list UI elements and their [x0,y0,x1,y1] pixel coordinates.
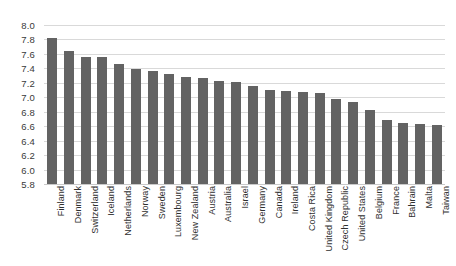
y-axis: 8.07.87.67.47.27.06.86.66.46.26.05.8 [0,25,40,184]
bar[interactable] [214,81,224,184]
y-tick-label: 7.2 [21,77,35,88]
bars-layer [44,25,445,184]
x-tick-label-text: Finland [56,186,66,216]
y-tick-label: 7.4 [21,63,35,74]
bar[interactable] [198,78,208,184]
x-tick-label-text: New Zealand [190,186,200,240]
x-tick-label: Austria [207,186,217,215]
x-tick-label: Finland [56,186,66,216]
x-tick-label: Australia [223,186,233,222]
bar[interactable] [131,69,141,184]
bar[interactable] [148,71,158,184]
x-tick-label-text: Malta [424,186,434,209]
x-tick-label: New Zealand [190,186,200,240]
y-tick-label: 6.6 [21,121,35,132]
x-tick-label-text: Denmark [73,186,83,223]
x-tick-label-text: Canada [274,186,284,218]
bar[interactable] [315,93,325,184]
bar[interactable] [64,51,74,184]
y-tick-label: 7.6 [21,48,35,59]
x-tick-label: Luxembourg [173,186,183,237]
y-tick-label: 8.0 [21,20,35,31]
x-tick-label-text: Sweden [157,186,167,219]
x-tick-label-text: Australia [223,186,233,222]
x-tick-label-text: Belgium [374,186,384,219]
x-tick-label-text: Costa Rica [307,186,317,231]
x-tick-label-text: Norway [140,186,150,217]
x-tick-label-text: Iceland [106,186,116,216]
x-tick-label: Canada [274,186,284,218]
bar[interactable] [298,92,308,184]
x-tick-label-text: Israel [240,186,250,209]
bar[interactable] [281,91,291,184]
bar[interactable] [164,74,174,184]
x-tick-label-text: Netherlands [123,186,133,236]
bar-chart: 8.07.87.67.47.27.06.86.66.46.26.05.8 Fin… [0,0,456,266]
x-axis: FinlandDenmarkSwitzerlandIcelandNetherla… [44,186,445,266]
y-tick-label: 7.0 [21,92,35,103]
bar[interactable] [398,123,408,184]
x-tick-label: Switzerland [90,186,100,234]
gridline [44,184,445,185]
bar[interactable] [415,124,425,184]
x-tick-label: Netherlands [123,186,133,236]
bar[interactable] [47,38,57,184]
x-tick-label: Sweden [157,186,167,219]
y-tick-label: 7.8 [21,34,35,45]
x-tick-label-text: Czech Republic [340,186,350,250]
x-tick-label: Belgium [374,186,384,219]
x-tick-label: Czech Republic [340,186,350,250]
bar[interactable] [81,57,91,184]
x-tick-label-text: Austria [207,186,217,215]
x-tick-label-text: Bahrain [407,186,417,218]
x-tick-label-text: United States [357,186,367,241]
x-tick-label: Germany [257,186,267,224]
x-tick-label: Israel [240,186,250,209]
x-tick-label-text: France [391,186,401,215]
y-tick-label: 6.0 [21,164,35,175]
x-tick-label-text: Luxembourg [173,186,183,237]
bar[interactable] [248,86,258,184]
x-tick-label: Ireland [290,186,300,214]
x-tick-label: Costa Rica [307,186,317,231]
bar[interactable] [114,64,124,184]
bar[interactable] [432,125,442,184]
y-tick-label: 5.8 [21,179,35,190]
bar[interactable] [365,110,375,184]
bar[interactable] [265,90,275,184]
bar[interactable] [97,57,107,184]
x-tick-label: United States [357,186,367,241]
x-tick-label-text: Switzerland [90,186,100,234]
x-tick-label-text: United Kingdom [324,186,334,251]
y-tick-label: 6.4 [21,135,35,146]
bar[interactable] [181,77,191,184]
bar[interactable] [231,82,241,184]
x-tick-label: Malta [424,186,434,209]
y-tick-label: 6.2 [21,150,35,161]
x-tick-label-text: Germany [257,186,267,224]
x-tick-label: United Kingdom [324,186,334,251]
x-tick-label: Bahrain [407,186,417,218]
x-tick-label: Iceland [106,186,116,216]
bar[interactable] [331,99,341,184]
y-tick-label: 6.8 [21,106,35,117]
x-tick-label: Denmark [73,186,83,223]
bar[interactable] [348,102,358,184]
x-tick-label-text: Taiwan [441,186,451,215]
bar[interactable] [382,120,392,184]
x-tick-label: Taiwan [441,186,451,215]
x-tick-label: France [391,186,401,215]
x-tick-label-text: Ireland [290,186,300,214]
x-tick-label: Norway [140,186,150,217]
